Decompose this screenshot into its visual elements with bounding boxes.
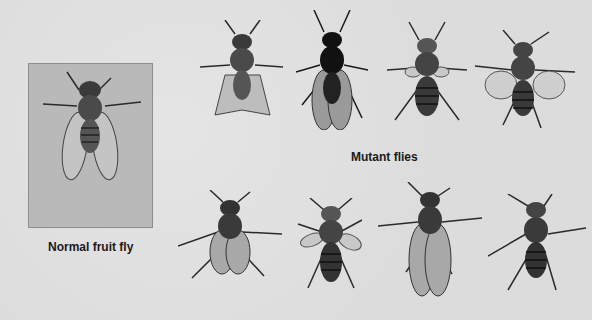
normal-fly-panel [28,63,153,228]
mutant-fly-3-illustration [385,20,470,125]
mutant-fly-4-illustration [473,30,578,130]
mutant-fly-6-illustration [296,198,366,293]
mutant-fly-7-illustration [378,182,483,300]
mutant-fly-1-illustration [200,20,285,125]
normal-fruit-fly-illustration [37,68,147,198]
mutant-flies-label: Mutant flies [351,150,418,164]
mutant-fly-2-illustration [292,10,372,130]
normal-fly-label: Normal fruit fly [48,240,133,254]
bottom-margin [0,320,592,328]
mutant-fly-5-illustration [178,190,283,285]
mutant-fly-8-illustration [488,194,588,294]
